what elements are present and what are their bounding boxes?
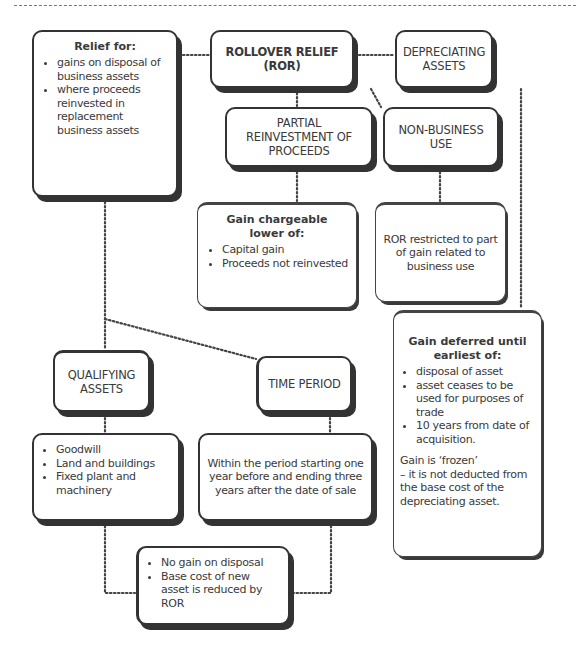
relief-list: gains on disposal of business assets whe… [40, 56, 170, 137]
result-item: No gain on disposal [161, 556, 282, 570]
result-list: No gain on disposal Base cost of new ass… [145, 556, 282, 610]
gain-frozen-line1: Gain is ‘frozen’ [400, 454, 535, 468]
gain-frozen-note: Gain is ‘frozen’ – it is not deducted fr… [400, 454, 535, 508]
qualifying-assets-list-box: Goodwill Land and buildings Fixed plant … [32, 433, 180, 521]
partial-reinvestment-box: PARTIAL REINVESTMENT OF PROCEEDS [225, 107, 373, 167]
result-item: Base cost of new asset is reduced by ROR [161, 570, 282, 611]
gain-chargeable-box: Gain chargeable lower of: Capital gain P… [197, 202, 357, 308]
qualifying-assets-label: QUALIFYING ASSETS [63, 368, 140, 396]
gain-chargeable-list: Capital gain Proceeds not reinvested [206, 243, 348, 270]
ror-restricted-box: ROR restricted to part of gain related t… [375, 202, 506, 302]
rollover-relief-box: ROLLOVER RELIEF (ROR) [210, 30, 354, 88]
qualifying-asset-item: Fixed plant and machinery [56, 470, 172, 497]
gain-chargeable-heading: Gain chargeable lower of: [206, 213, 348, 241]
qualifying-asset-item: Land and buildings [56, 457, 172, 471]
gain-deferred-item: 10 years from date of acquisition. [416, 419, 535, 446]
gain-chargeable-item: Proceeds not reinvested [222, 257, 348, 271]
gain-deferred-box: Gain deferred until earliest of: disposa… [393, 310, 542, 557]
time-period-text-box: Within the period starting one year befo… [198, 433, 373, 521]
gain-deferred-item: asset ceases to be used for purposes of … [416, 379, 535, 420]
relief-heading: Relief for: [40, 40, 170, 54]
gain-chargeable-item: Capital gain [222, 243, 348, 257]
relief-item: gains on disposal of business assets [57, 56, 170, 83]
qualifying-asset-item: Goodwill [56, 443, 172, 457]
partial-reinvestment-label: PARTIAL REINVESTMENT OF PROCEEDS [235, 116, 363, 158]
qualifying-assets-box: QUALIFYING ASSETS [53, 350, 150, 412]
result-box: No gain on disposal Base cost of new ass… [136, 546, 290, 625]
time-period-box: TIME PERIOD [256, 356, 352, 412]
rollover-relief-title: ROLLOVER RELIEF (ROR) [212, 45, 352, 73]
non-business-use-label: NON-BUSINESS USE [391, 123, 491, 151]
non-business-use-box: NON-BUSINESS USE [383, 107, 499, 167]
depreciating-assets-box: DEPRECIATING ASSETS [395, 30, 493, 88]
gain-deferred-item: disposal of asset [416, 365, 535, 379]
gain-deferred-list: disposal of asset asset ceases to be use… [400, 365, 535, 446]
time-period-label: TIME PERIOD [268, 377, 341, 391]
relief-item: where proceeds reinvested in replacement… [57, 83, 170, 137]
gain-deferred-heading: Gain deferred until earliest of: [400, 335, 535, 363]
relief-for-box: Relief for: gains on disposal of busines… [32, 30, 178, 197]
gain-frozen-line2: – it is not deducted from the base cost … [400, 468, 535, 509]
time-period-text: Within the period starting one year befo… [204, 457, 367, 498]
depreciating-assets-label: DEPRECIATING ASSETS [403, 45, 485, 73]
qualifying-assets-list: Goodwill Land and buildings Fixed plant … [40, 443, 172, 497]
ror-restricted-text: ROR restricted to part of gain related t… [382, 233, 499, 274]
